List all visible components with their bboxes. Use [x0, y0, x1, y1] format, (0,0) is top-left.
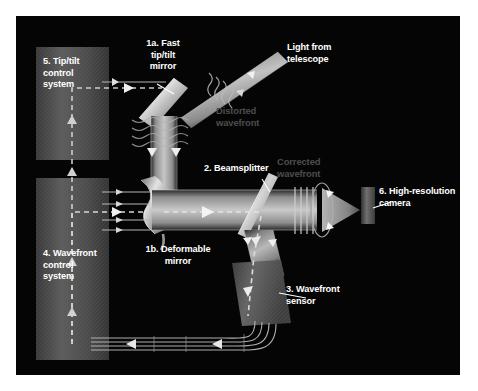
- label-fast-tip-tilt-mirror: 1a. Fast tip/tilt mirror: [126, 38, 200, 73]
- label-high-resolution-camera: 6. High-resolution camera: [379, 186, 455, 209]
- label-wavefront-control-system: 4. Wavefront control system: [43, 248, 97, 283]
- wavefront-sensor-box: [232, 260, 291, 326]
- figure-frame: 5. Tip/tilt control system 1a. Fast tip/…: [0, 0, 478, 391]
- converging-beam-to-camera: [322, 188, 360, 232]
- label-light-from-telescope: Light from telescope: [287, 42, 331, 65]
- sensor-cable-tick-marks: [154, 334, 244, 352]
- corrected-horizontal-beam: [152, 190, 317, 230]
- high-resolution-camera: [361, 187, 375, 224]
- label-wavefront-sensor: 3. Wavefront sensor: [286, 284, 340, 307]
- label-beamsplitter: 2. Beamsplitter: [204, 163, 268, 175]
- diagram-panel: 5. Tip/tilt control system 1a. Fast tip/…: [16, 16, 460, 375]
- label-distorted-wavefront: Distorted wavefront: [216, 105, 259, 130]
- label-tip-tilt-control-system: 5. Tip/tilt control system: [43, 56, 80, 91]
- sensor-cable-flow-arrows: [126, 339, 222, 349]
- label-corrected-wavefront: Corrected wavefront: [277, 156, 320, 181]
- deformable-mirror-actuator-rails: [102, 192, 150, 230]
- label-deformable-mirror: 1b. Deformable mirror: [134, 244, 222, 267]
- tip-tilt-signal-rail: [102, 78, 166, 86]
